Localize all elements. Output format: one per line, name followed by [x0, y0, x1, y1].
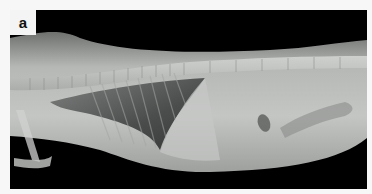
xray-rendering [10, 10, 367, 189]
radiograph-image [10, 10, 367, 189]
panel-label: a [10, 10, 36, 35]
